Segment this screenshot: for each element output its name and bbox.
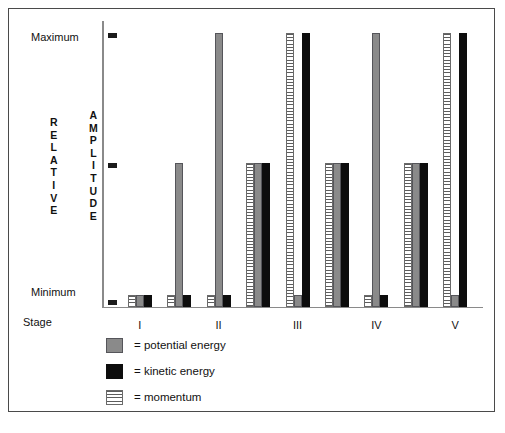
figure-panel: Maximum Minimum Stage RELATIVE AMPLITUDE… bbox=[8, 8, 495, 412]
y-axis-amplitude-char-3: L bbox=[90, 147, 96, 160]
bar-momentum bbox=[128, 295, 136, 307]
bar-momentum bbox=[207, 295, 215, 307]
bar-group bbox=[167, 21, 191, 307]
legend-label-kinetic: = kinetic energy bbox=[134, 365, 215, 377]
legend-item-momentum: = momentum bbox=[106, 386, 226, 408]
x-axis-title: Stage bbox=[23, 316, 52, 328]
y-axis-amplitude-char-1: M bbox=[89, 122, 98, 135]
y-axis-relative-char-3: A bbox=[50, 154, 58, 167]
bar-kinetic bbox=[183, 295, 191, 307]
bar-group bbox=[404, 21, 428, 307]
bar-group bbox=[443, 21, 467, 307]
stage-tick-II: II bbox=[216, 319, 222, 331]
bar-momentum bbox=[167, 295, 175, 307]
bar-group bbox=[207, 21, 231, 307]
bar-potential bbox=[412, 163, 420, 307]
y-axis-label-relative: RELATIVE bbox=[50, 116, 58, 217]
bar-momentum bbox=[443, 33, 451, 307]
y-axis-amplitude-char-4: I bbox=[92, 159, 95, 172]
y-axis-relative-char-4: T bbox=[51, 166, 57, 179]
bar-potential bbox=[175, 163, 183, 307]
y-axis-amplitude-char-0: A bbox=[90, 109, 98, 122]
bar-potential bbox=[215, 33, 223, 307]
y-axis-amplitude-char-8: E bbox=[90, 210, 97, 223]
bar-group bbox=[364, 21, 388, 307]
y-axis-relative-char-2: L bbox=[51, 141, 57, 154]
legend-swatch-kinetic-icon bbox=[106, 364, 123, 379]
bar-potential bbox=[451, 295, 459, 307]
bar-momentum bbox=[325, 163, 333, 307]
bar-momentum bbox=[404, 163, 412, 307]
bar-kinetic bbox=[223, 295, 231, 307]
y-axis-relative-char-7: E bbox=[50, 204, 57, 217]
bar-group bbox=[246, 21, 270, 307]
bar-kinetic bbox=[459, 33, 467, 307]
y-axis-label-amplitude: AMPLITUDE bbox=[89, 109, 98, 222]
stage-tick-IV: IV bbox=[371, 319, 381, 331]
bar-kinetic bbox=[341, 163, 349, 307]
bar-kinetic bbox=[380, 295, 388, 307]
y-axis-amplitude-char-6: U bbox=[90, 185, 98, 198]
bar-kinetic bbox=[262, 163, 270, 307]
bar-group bbox=[286, 21, 310, 307]
bar-potential bbox=[254, 163, 262, 307]
y-axis-relative-char-0: R bbox=[50, 116, 58, 129]
bar-potential bbox=[333, 163, 341, 307]
legend-swatch-momentum-icon bbox=[106, 390, 123, 405]
bar-potential bbox=[136, 295, 144, 307]
y-axis-amplitude-char-5: T bbox=[90, 172, 96, 185]
legend-label-momentum: = momentum bbox=[134, 391, 201, 403]
y-axis-min-label: Minimum bbox=[31, 286, 76, 298]
plot-area: IIIIIIIVV bbox=[102, 21, 483, 308]
bar-momentum bbox=[246, 163, 254, 307]
bar-group bbox=[325, 21, 349, 307]
y-axis-amplitude-char-7: D bbox=[90, 197, 98, 210]
y-axis-max-label: Maximum bbox=[31, 31, 79, 43]
y-axis-relative-char-5: I bbox=[52, 179, 55, 192]
bar-potential bbox=[372, 33, 380, 307]
legend-swatch-potential-icon bbox=[106, 338, 123, 353]
stage-tick-III: III bbox=[293, 319, 302, 331]
bar-kinetic bbox=[144, 295, 152, 307]
y-axis-relative-char-1: E bbox=[50, 129, 57, 142]
bar-groups-container bbox=[102, 21, 483, 307]
stage-tick-I: I bbox=[138, 319, 141, 331]
legend-label-potential: = potential energy bbox=[134, 339, 226, 351]
bar-potential bbox=[294, 295, 302, 307]
y-axis-relative-char-6: V bbox=[50, 192, 57, 205]
bar-kinetic bbox=[420, 163, 428, 307]
bar-group bbox=[128, 21, 152, 307]
bar-momentum bbox=[364, 295, 372, 307]
chart-legend: = potential energy= kinetic energy= mome… bbox=[106, 334, 226, 412]
bar-kinetic bbox=[302, 33, 310, 307]
legend-item-kinetic: = kinetic energy bbox=[106, 360, 226, 382]
bar-momentum bbox=[286, 33, 294, 307]
legend-item-potential: = potential energy bbox=[106, 334, 226, 356]
y-axis-amplitude-char-2: P bbox=[90, 134, 97, 147]
stage-tick-V: V bbox=[452, 319, 459, 331]
